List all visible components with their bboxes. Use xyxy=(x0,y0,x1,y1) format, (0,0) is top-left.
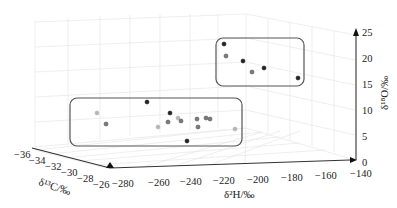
x-tick: −180 xyxy=(281,172,303,183)
x-tick: −220 xyxy=(213,175,235,186)
data-point xyxy=(233,127,237,131)
x-tick-labels: −280 −260 −240 −220 −200 −180 −160 −140 xyxy=(112,168,372,189)
data-point xyxy=(204,116,208,120)
z-tick-labels: 0 5 10 15 20 25 xyxy=(362,27,373,168)
data-point xyxy=(145,100,149,104)
data-point xyxy=(166,120,170,124)
scatter-3d-chart: −280 −260 −240 −220 −200 −180 −160 −140 … xyxy=(0,0,397,208)
x-tick: −260 xyxy=(148,177,170,188)
data-point xyxy=(185,139,189,143)
data-point xyxy=(250,70,254,74)
z-tick: 15 xyxy=(362,79,373,90)
data-point xyxy=(196,125,200,129)
z-tick: 0 xyxy=(362,157,367,168)
x-tick: −160 xyxy=(315,170,337,181)
x-axis-label: δ²H/‰ xyxy=(224,188,254,200)
data-point xyxy=(179,119,183,123)
data-point xyxy=(208,117,212,121)
grid-back-wall xyxy=(35,14,246,150)
data-point xyxy=(104,122,108,126)
y-axis-label: δ¹³C/‰ xyxy=(37,175,72,197)
grid-floor xyxy=(35,128,355,169)
data-point xyxy=(156,125,160,129)
origin-arrow-icon xyxy=(106,162,114,168)
x-tick: −240 xyxy=(180,176,202,187)
y-tick: −36 xyxy=(14,149,30,160)
data-point xyxy=(296,76,300,80)
y-tick: −26 xyxy=(93,179,109,190)
data-point xyxy=(95,111,99,115)
data-point xyxy=(262,66,266,70)
x-tick: −200 xyxy=(247,174,269,185)
data-point xyxy=(222,42,226,46)
z-axis-label: δ¹⁸O/‰ xyxy=(378,76,390,110)
lower-cluster-box xyxy=(70,98,242,146)
data-point xyxy=(224,54,228,58)
y-tick: −28 xyxy=(77,173,93,184)
x-tick: −140 xyxy=(350,168,372,179)
y-tick: −30 xyxy=(61,167,77,178)
data-point xyxy=(168,111,172,115)
data-point xyxy=(195,117,199,121)
z-tick: 25 xyxy=(362,27,373,38)
z-tick: 20 xyxy=(362,53,373,64)
x-tick: −280 xyxy=(112,178,134,189)
upper-cluster-box xyxy=(216,38,304,86)
grid-side-wall xyxy=(246,14,355,152)
z-tick: 10 xyxy=(362,105,373,116)
data-point xyxy=(241,59,245,63)
y-tick: −34 xyxy=(29,155,46,166)
z-axis-arrow-icon xyxy=(353,28,359,36)
z-tick: 5 xyxy=(362,131,367,142)
y-tick: −32 xyxy=(45,161,61,172)
